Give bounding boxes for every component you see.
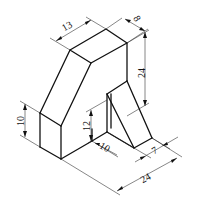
dimension-label-12: 12	[81, 121, 92, 131]
object-outline	[40, 29, 152, 159]
dimension-step-height: 12	[81, 100, 107, 143]
dimension-label-8: 8	[131, 13, 143, 23]
dimension-left-height: 10	[15, 101, 40, 147]
dimension-top-width: 8	[106, 13, 148, 43]
dimension-step-depth: 10	[92, 132, 132, 157]
dimension-base-width: 24	[61, 138, 182, 195]
dimension-label-13: 13	[60, 19, 74, 34]
dimension-label-7: 7	[150, 144, 160, 156]
dimension-right-height: 24	[127, 30, 149, 116]
dimension-label-10-left: 10	[15, 116, 26, 126]
dimension-label-24-vertical: 24	[136, 68, 147, 78]
isometric-part-drawing: 13 8 24 10 12	[0, 0, 201, 209]
